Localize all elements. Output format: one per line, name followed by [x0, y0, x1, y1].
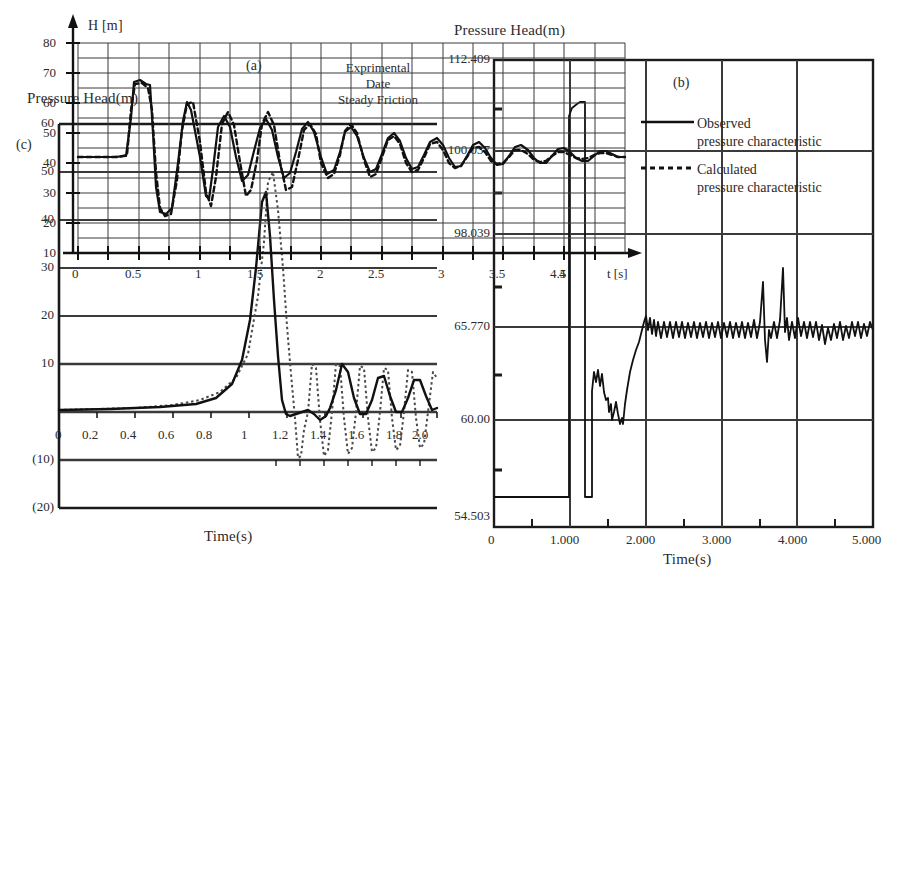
panel-c-figure: (c) H [m] t [s] 80 70 60 50 40 30 20 10 …	[0, 0, 913, 298]
panel-c-plot	[0, 0, 913, 298]
